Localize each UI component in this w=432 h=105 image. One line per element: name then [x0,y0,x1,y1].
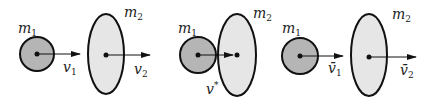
label-m2: m2 [253,5,272,23]
label-v2-bar: v̄2 [400,62,414,80]
label-m2: m2 [124,4,143,22]
label-m1: m1 [18,20,37,38]
label-v-star: v* [206,80,219,97]
label-m1: m1 [178,20,197,38]
panel-before-collision: m1 m2 v1 v2 [18,4,150,94]
center-dot-m1 [196,53,201,58]
center-dot-m2 [104,53,109,58]
center-dot-m1 [298,54,303,59]
center-dot-m2 [367,55,372,60]
center-dot-m1 [35,52,40,57]
label-v2: v2 [134,61,148,79]
collision-diagram: m1 m2 v1 v2 m1 m2 v* m1 m2 v̄1 v̄2 [0,0,432,105]
panel-during-collision: m1 m2 v* [178,5,272,97]
label-m1: m1 [282,20,301,38]
label-v1: v1 [63,59,77,77]
label-v1-bar: v̄1 [328,60,342,78]
center-dot-m2 [235,53,240,58]
panel-after-collision: m1 m2 v̄1 v̄2 [282,6,416,96]
label-m2: m2 [392,6,411,24]
